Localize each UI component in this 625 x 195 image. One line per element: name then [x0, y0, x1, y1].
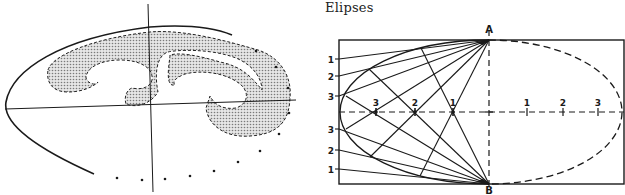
edge-division-label: 1 — [328, 165, 334, 175]
ray-from-a — [420, 40, 489, 176]
ellipse-point-dot — [288, 112, 291, 115]
point-a-label: A — [485, 24, 493, 35]
edge-division-label: 2 — [328, 146, 334, 156]
ellipse-point-dot — [237, 161, 240, 164]
ellipse-point-dot — [278, 133, 281, 136]
ellipse-point-dot — [189, 175, 192, 178]
ray-to-edge — [339, 150, 489, 184]
axis-tick-label: 3 — [595, 98, 601, 108]
ray-from-b — [369, 69, 489, 184]
edge-division-label: 3 — [328, 125, 334, 135]
point-b-label: B — [485, 185, 493, 195]
ellipse-point-dot — [287, 87, 290, 90]
french-curve-template — [48, 32, 291, 137]
diagram-canvas: Elipses 123321321123 A B — [0, 0, 625, 195]
axis-point-label: 2 — [412, 98, 418, 108]
ellipse-point-dot — [164, 178, 167, 181]
axis-point-label: 1 — [450, 98, 456, 108]
ellipse-construction-figure: 123321321123 A B — [328, 24, 624, 195]
edge-division-label: 2 — [328, 72, 334, 82]
ellipse-point-dot — [275, 66, 278, 69]
edge-division-label: 1 — [328, 55, 334, 65]
ray-to-edge — [339, 40, 489, 59]
axis-tick-label: 1 — [524, 98, 530, 108]
french-curve-figure — [5, 4, 296, 192]
edge-division-label: 3 — [328, 92, 334, 102]
axis-point-label: 3 — [373, 98, 379, 108]
ellipse-construction-drawing: 123321321123 A B — [0, 0, 625, 195]
ellipse-point-dot — [141, 179, 144, 182]
ray-to-edge — [339, 40, 489, 96]
ray-from-a — [370, 40, 489, 157]
ellipse-point-dot — [213, 170, 216, 173]
diagram-title: Elipses — [325, 0, 374, 15]
ray-to-edge — [339, 40, 489, 76]
ray-to-edge — [339, 169, 489, 184]
ellipse-point-dot — [255, 50, 258, 53]
ellipse-point-dot — [116, 177, 119, 180]
axis-tick-label: 2 — [560, 98, 566, 108]
ellipse-point-dot — [259, 150, 262, 153]
